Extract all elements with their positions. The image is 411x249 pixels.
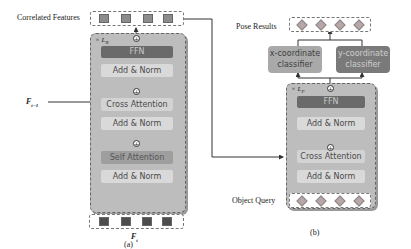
feature-token <box>163 14 173 23</box>
input-token <box>142 217 152 226</box>
query-token <box>334 195 345 206</box>
ffn-block-a: FFN <box>101 46 173 58</box>
x-classifier-line1: x-coordinate <box>268 48 322 59</box>
repeat-label-b: × LP <box>291 85 304 94</box>
y-classifier-line1: y-coordinate <box>336 48 390 59</box>
feature-token <box>99 14 109 23</box>
add-norm-block-b1: Add & Norm <box>297 117 365 130</box>
feature-token <box>121 14 131 23</box>
input-token <box>99 217 109 226</box>
correlated-features-tokens <box>90 11 184 26</box>
pose-results-tokens <box>289 17 371 32</box>
pose-results-label: Pose Results <box>236 22 277 31</box>
add-op-icon: + <box>327 85 334 92</box>
caption-a: (a) <box>124 240 133 249</box>
x-coordinate-classifier: x-coordinate classifier <box>268 46 322 73</box>
input-token <box>162 217 172 226</box>
pose-token <box>315 19 326 30</box>
add-op-icon: + <box>327 144 334 151</box>
correlated-features-label: Correlated Features <box>17 13 80 22</box>
cross-attention-block-a: Cross Attention <box>101 98 173 111</box>
add-op-icon: + <box>133 35 140 42</box>
add-norm-block-a1: Add & Norm <box>101 64 173 77</box>
x-classifier-line2: classifier <box>268 59 322 70</box>
object-query-tokens <box>289 193 371 208</box>
input-feature-tokens <box>89 214 184 229</box>
y-classifier-line2: classifier <box>336 59 390 70</box>
repeat-label-a: × LR <box>95 36 108 45</box>
cross-attention-block-b: Cross Attention <box>297 150 365 163</box>
pose-token <box>334 19 345 30</box>
query-token <box>296 195 307 206</box>
ffn-block-b: FFN <box>297 96 365 108</box>
input-token <box>121 217 131 226</box>
add-norm-block-a3: Add & Norm <box>101 170 173 183</box>
feature-token <box>143 14 153 23</box>
f-t-minus-1-label: Ft−1 <box>26 97 38 108</box>
pose-token <box>296 19 307 30</box>
add-norm-block-a2: Add & Norm <box>101 117 173 130</box>
caption-b: (b) <box>310 228 319 237</box>
encoder-stack-a: × LR FFN Add & Norm Cross Attention Add … <box>90 33 186 213</box>
object-query-label: Object Query <box>232 196 275 205</box>
pose-token <box>353 19 364 30</box>
query-token <box>353 195 364 206</box>
add-op-icon: + <box>133 140 140 147</box>
add-op-icon: + <box>133 88 140 95</box>
query-token <box>315 195 326 206</box>
add-norm-block-b2: Add & Norm <box>297 170 365 183</box>
self-attention-block-a: Self Attention <box>101 151 173 164</box>
y-coordinate-classifier: y-coordinate classifier <box>336 46 390 73</box>
